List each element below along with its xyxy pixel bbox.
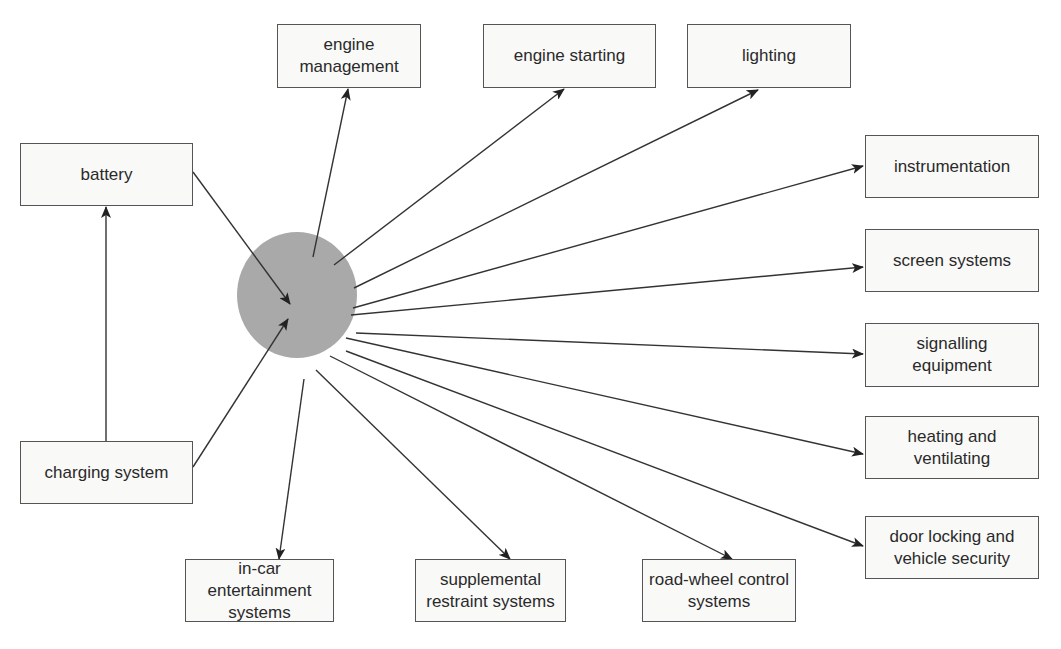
box-heating-ventilating: heating and ventilating — [865, 416, 1039, 479]
edge-hub-to-screen-systems — [351, 267, 863, 315]
box-screen-systems: screen systems — [865, 229, 1039, 292]
label: engine starting — [514, 45, 626, 67]
edge-charging-to-hub — [193, 319, 288, 467]
edge-hub-to-lighting — [354, 90, 758, 288]
label: in-car entertainment systems — [190, 558, 329, 624]
box-supplemental-restraint: supplemental restraint systems — [415, 559, 566, 622]
edge-hub-to-engine-starting — [334, 89, 564, 265]
edge-hub-to-instrumentation — [353, 166, 863, 308]
box-signalling-equipment: signalling equipment — [865, 323, 1039, 387]
label: charging system — [45, 462, 169, 484]
edge-hub-to-in-car — [279, 379, 304, 559]
label: signalling equipment — [870, 333, 1034, 377]
label: lighting — [742, 45, 796, 67]
box-engine-starting: engine starting — [483, 24, 656, 88]
edge-hub-to-signalling — [356, 333, 863, 354]
label: road-wheel control systems — [647, 569, 791, 613]
central-hub — [237, 232, 357, 358]
label: battery — [81, 164, 133, 186]
edge-hub-to-road-wheel — [330, 356, 732, 559]
box-road-wheel-control: road-wheel control systems — [642, 559, 796, 622]
label: screen systems — [893, 250, 1011, 272]
edge-hub-to-engine-management — [313, 89, 348, 257]
edge-hub-to-heating — [346, 338, 863, 454]
label: heating and ventilating — [870, 426, 1034, 470]
box-door-locking: door locking and vehicle security — [865, 516, 1039, 579]
box-engine-management: engine management — [277, 24, 421, 88]
label: door locking and vehicle security — [870, 526, 1034, 570]
box-instrumentation: instrumentation — [865, 135, 1039, 198]
box-charging-system: charging system — [20, 441, 193, 504]
edge-hub-to-door-locking — [346, 351, 863, 546]
box-in-car-entertainment: in-car entertainment systems — [185, 559, 334, 622]
box-lighting: lighting — [687, 24, 851, 88]
vehicle-electrical-system-diagram: battery charging system engine managemen… — [0, 0, 1061, 649]
label: engine management — [282, 34, 416, 78]
label: instrumentation — [894, 156, 1010, 178]
box-battery: battery — [20, 143, 193, 206]
label: supplemental restraint systems — [420, 569, 561, 613]
